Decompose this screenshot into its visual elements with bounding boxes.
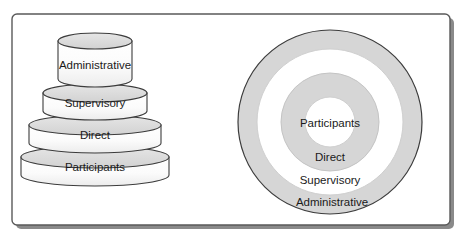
stack-tier-participants-label: Participants — [65, 161, 125, 173]
stack-tier-supervisory-label: Supervisory — [65, 97, 126, 109]
ring-administrative-label: Administrative — [296, 196, 368, 208]
stack-tier-administrative-top — [58, 33, 132, 49]
diagram-root: Participants Direct Supervisory Administ… — [0, 0, 462, 241]
stack-tier-administrative: Administrative — [58, 33, 132, 87]
concentric-ring-chart: Participants Direct Supervisory Administ… — [238, 30, 422, 214]
ring-supervisory-label: Supervisory — [300, 174, 361, 186]
stack-tier-administrative-label: Administrative — [59, 59, 131, 71]
organizational-levels-figure: Participants Direct Supervisory Administ… — [0, 0, 462, 241]
ring-participants-label: Participants — [300, 117, 360, 129]
stack-tier-supervisory: Supervisory — [43, 84, 147, 120]
stack-tier-direct: Direct — [29, 115, 161, 153]
stack-tier-direct-label: Direct — [80, 129, 111, 141]
ring-direct-label: Direct — [315, 151, 346, 163]
